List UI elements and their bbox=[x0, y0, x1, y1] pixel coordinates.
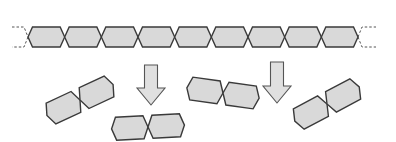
dimer-fragment bbox=[111, 114, 185, 141]
chain-unit bbox=[28, 27, 65, 47]
dimer-fragment bbox=[42, 74, 118, 126]
fragment-unit bbox=[185, 77, 224, 105]
down-arrow-icon bbox=[137, 65, 165, 105]
chain-right-open-end bbox=[358, 27, 376, 47]
chain-unit bbox=[175, 27, 212, 47]
chain-left-open-end bbox=[12, 27, 28, 47]
polymer-chain bbox=[28, 27, 358, 47]
chain-unit bbox=[321, 27, 358, 47]
polymer-cleavage-diagram bbox=[0, 0, 396, 142]
fragment-unit bbox=[221, 82, 260, 110]
fragment-unit bbox=[75, 74, 118, 110]
chain-unit bbox=[285, 27, 322, 47]
fragment-unit bbox=[147, 114, 185, 139]
chain-unit bbox=[101, 27, 138, 47]
chain-unit bbox=[138, 27, 175, 47]
dimer-fragment bbox=[185, 77, 260, 110]
dimer-fragment bbox=[289, 77, 364, 132]
chain-unit bbox=[248, 27, 285, 47]
fragment-unit bbox=[42, 90, 85, 126]
fragment-unit bbox=[111, 116, 149, 141]
chain-unit bbox=[65, 27, 102, 47]
down-arrow-icon bbox=[263, 62, 291, 103]
chain-unit bbox=[211, 27, 248, 47]
dimer-fragments bbox=[42, 74, 365, 140]
